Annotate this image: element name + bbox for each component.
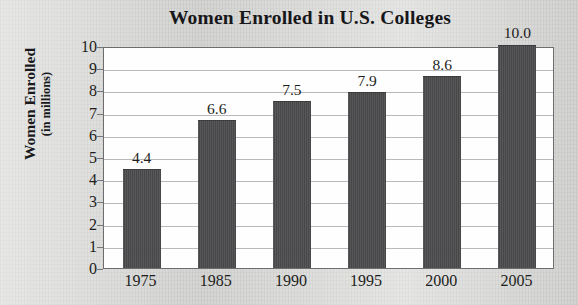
y-axis-tick-label: 0 xyxy=(61,260,97,278)
bar-value-label: 10.0 xyxy=(504,24,531,42)
chart-figure: Women Enrolled in U.S. Colleges Women En… xyxy=(0,0,578,305)
x-axis-tick-label: 2005 xyxy=(479,272,554,290)
bar-value-label: 7.5 xyxy=(282,81,301,99)
y-axis-tick-label: 1 xyxy=(61,238,97,256)
x-axis-tick-labels: 197519851990199520002005 xyxy=(103,272,554,296)
y-axis-tick-label: 5 xyxy=(61,149,97,167)
bar: 8.6 xyxy=(423,77,461,268)
x-axis-tick-label: 1990 xyxy=(253,272,328,290)
x-axis-tick-label: 2000 xyxy=(404,272,479,290)
y-axis-tick-label: 10 xyxy=(61,38,97,56)
bar-rect xyxy=(348,92,386,268)
x-axis-tick-label: 1995 xyxy=(329,272,404,290)
bar: 4.4 xyxy=(123,170,161,268)
bar-value-label: 7.9 xyxy=(357,72,376,90)
y-axis-tick-label: 2 xyxy=(61,216,97,234)
y-axis-title: Women Enrolled (in millions) xyxy=(17,19,57,189)
bar-rect xyxy=(423,76,461,268)
y-axis-tick-label: 7 xyxy=(61,105,97,123)
bar: 10.0 xyxy=(498,46,536,268)
y-axis-title-line1: Women Enrolled xyxy=(21,48,38,160)
y-axis-tick-mark xyxy=(97,269,103,270)
y-axis-tick-label: 4 xyxy=(61,171,97,189)
bar-rect xyxy=(498,45,536,268)
y-axis-title-line2: (in millions) xyxy=(39,72,53,136)
chart-title: Women Enrolled in U.S. Colleges xyxy=(60,7,560,29)
y-axis-tick-label: 3 xyxy=(61,193,97,211)
y-axis-tick-label: 6 xyxy=(61,127,97,145)
bar-value-label: 6.6 xyxy=(207,100,226,118)
bar: 6.6 xyxy=(198,121,236,268)
bar: 7.9 xyxy=(348,93,386,268)
bar-series: 4.46.67.57.98.610.0 xyxy=(104,48,553,268)
x-axis-tick-label: 1985 xyxy=(178,272,253,290)
bar-rect xyxy=(273,101,311,269)
bar-rect xyxy=(198,120,236,268)
bar: 7.5 xyxy=(273,102,311,269)
y-axis-tick-label: 8 xyxy=(61,82,97,100)
y-axis-tick-labels: 012345678910 xyxy=(59,47,97,269)
bar-value-label: 8.6 xyxy=(433,56,452,74)
y-axis-tick-label: 9 xyxy=(61,60,97,78)
bar-value-label: 4.4 xyxy=(132,149,151,167)
plot-area: 4.46.67.57.98.610.0 xyxy=(103,47,554,269)
bar-rect xyxy=(123,169,161,268)
x-axis-tick-label: 1975 xyxy=(103,272,178,290)
